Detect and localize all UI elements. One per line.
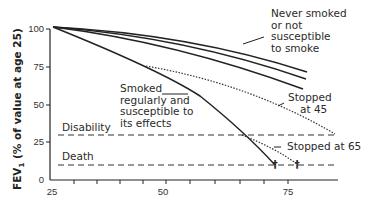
stopped-65-label: Stopped at 65 (287, 140, 361, 152)
x-ticks (74, 180, 288, 184)
death-marker-stopped-65: † (294, 158, 299, 170)
y-tick-100: 100 (28, 23, 44, 34)
y-tick-0: 0 (39, 174, 44, 185)
never-smoked-curve-lower (53, 27, 303, 89)
stopped-45-leader (278, 103, 284, 106)
x-tick-75: 75 (283, 186, 294, 197)
never-smoked-curve-upper (53, 27, 307, 72)
y-tick-25: 25 (33, 136, 44, 147)
death-marker-smoker: † (272, 158, 277, 170)
death-label: Death (62, 150, 94, 162)
never-smoked-leader (243, 37, 264, 44)
never-smoked-label: Never smoked or not susceptible to smoke (271, 7, 350, 54)
y-axis-label: FEV1 (% of value at age 25) (11, 28, 26, 190)
fev1-chart: 100 75 50 25 0 25 50 75 FEV1 (% of value… (0, 0, 368, 208)
stopped-45-label: Stopped at 45 (288, 91, 335, 115)
y-tick-50: 50 (33, 99, 44, 110)
never-smoked-curve-middle (53, 27, 306, 79)
disability-label: Disability (62, 121, 111, 133)
smoker-label: Smoked regularly and susceptible to its … (120, 82, 197, 129)
y-tick-75: 75 (33, 61, 44, 72)
x-tick-25: 25 (47, 186, 58, 197)
x-tick-50: 50 (158, 186, 169, 197)
